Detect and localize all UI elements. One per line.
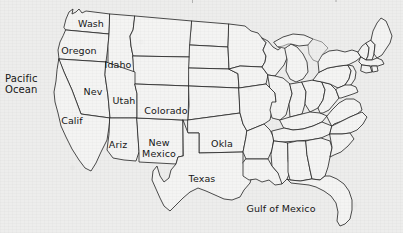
state-michigan	[285, 44, 308, 82]
state-maine	[371, 18, 392, 58]
state-connecticut	[361, 65, 372, 73]
state-northdakota	[190, 21, 229, 47]
state-southdakota	[189, 45, 229, 69]
state-southcarolina	[330, 133, 354, 157]
state-wyoming	[133, 56, 190, 86]
state-montana	[130, 16, 192, 57]
state-colorado	[135, 84, 189, 120]
state-oregon	[58, 30, 109, 62]
state-arizona	[107, 118, 139, 161]
state-newmexico	[137, 118, 183, 164]
map-page: Wash Oregon Idaho Nev Utah Calif Colorad…	[0, 0, 403, 233]
state-minnesota	[228, 24, 266, 69]
state-nebraska	[189, 68, 239, 88]
us-map	[0, 0, 403, 233]
state-florida	[287, 176, 352, 226]
state-rhodeisland	[372, 66, 378, 72]
state-indiana	[289, 82, 306, 117]
